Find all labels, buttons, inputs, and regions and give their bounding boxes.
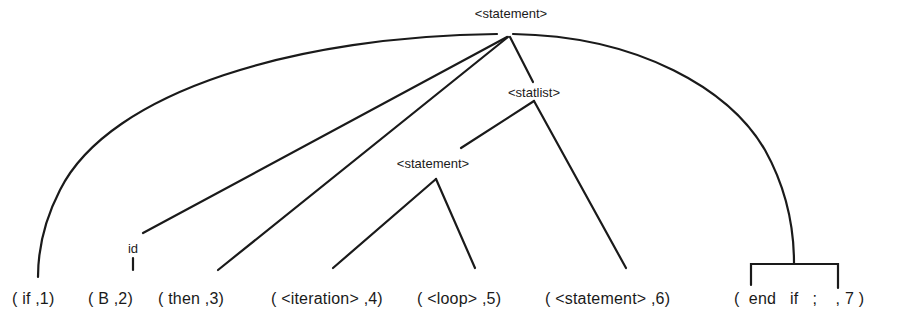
token-if: ( if ,1) (12, 291, 55, 307)
token-loop: ( <loop> ,5) (417, 291, 501, 307)
token-endif: ( end if ; , 7 ) (734, 291, 864, 307)
bracket-endif (751, 264, 838, 288)
node-inner-statement: <statement> (397, 157, 469, 170)
edge-statement-loop (436, 179, 475, 268)
node-root-statement: <statement> (475, 7, 547, 20)
token-b: ( B ,2) (88, 291, 133, 307)
edge-statlist-statement (461, 101, 534, 148)
token-iteration: ( <iteration> ,4) (271, 291, 383, 307)
edge-root-id (143, 37, 507, 233)
node-id: id (128, 242, 138, 255)
edge-statement-iteration (333, 179, 436, 268)
token-statement6: ( <statement> ,6) (545, 291, 670, 307)
node-statlist: <statlist> (508, 86, 560, 99)
edge-root-endif (513, 34, 794, 263)
edge-root-statlist (510, 37, 533, 82)
edge-root-then (218, 37, 508, 270)
edge-statlist-statement6 (534, 101, 626, 268)
token-then: ( then ,3) (158, 291, 224, 307)
